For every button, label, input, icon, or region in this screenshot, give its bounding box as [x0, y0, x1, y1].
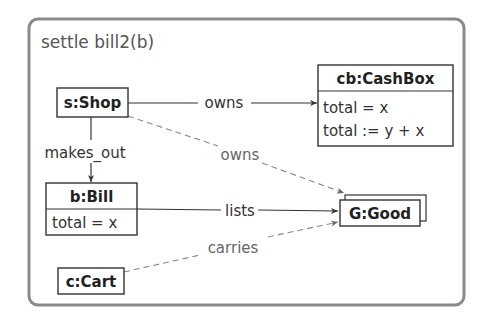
node-cart[interactable]: c:Cart [58, 268, 124, 294]
node-cashbox[interactable]: cb:CashBox total = x total := y + x [318, 65, 453, 146]
node-cashbox-attr-1: total = x [323, 99, 388, 117]
node-cashbox-attr-2: total := y + x [323, 122, 424, 140]
node-bill-attr-1: total = x [52, 214, 117, 232]
diagram-canvas: settle bill2(b) owns makes_out owns list… [0, 0, 490, 325]
node-good-label: G:Good [349, 205, 411, 223]
node-cashbox-label: cb:CashBox [337, 70, 435, 88]
edge-shop-makes-out-bill: makes_out [44, 117, 125, 182]
node-good[interactable]: G:Good [340, 195, 426, 226]
node-bill-label: b:Bill [70, 188, 114, 206]
rule-title: settle bill2(b) [41, 32, 154, 52]
node-cart-label: c:Cart [66, 273, 117, 291]
edge-label-makes-out: makes_out [44, 144, 125, 163]
node-bill[interactable]: b:Bill total = x [46, 183, 137, 235]
edge-cart-carries-good: carries [124, 222, 338, 272]
edge-shop-owns-cashbox: owns [128, 94, 317, 112]
node-shop-label: s:Shop [64, 94, 122, 112]
edge-label-lists: lists [225, 202, 255, 220]
edge-label-owns: owns [205, 94, 244, 112]
edge-label-owns-dashed: owns [221, 146, 260, 164]
edge-label-carries: carries [208, 239, 259, 257]
edge-bill-lists-good: lists [137, 202, 338, 220]
node-shop[interactable]: s:Shop [57, 88, 128, 117]
edge-shop-owns-good: owns [128, 116, 344, 193]
